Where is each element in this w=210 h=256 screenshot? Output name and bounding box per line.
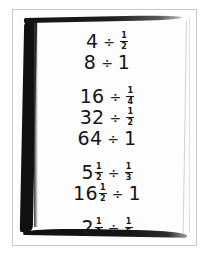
operand-fraction: 1 3 — [125, 163, 133, 182]
equation-line: 4 ÷ 1 2 — [86, 31, 128, 52]
operand-whole: 2 — [81, 218, 93, 237]
equation-group: 4 ÷ 1 2 8 ÷ 1 — [41, 31, 173, 73]
paper-sheet: 4 ÷ 1 2 8 ÷ 1 16 ÷ — [17, 15, 191, 239]
operand-whole: 64 — [78, 129, 103, 148]
fraction-denominator: 2 — [99, 195, 107, 203]
operand-whole: 8 — [84, 53, 96, 72]
operand-whole: 32 — [80, 108, 105, 127]
fraction-denominator: 5 — [125, 229, 133, 237]
fraction-numerator: 1 — [125, 163, 133, 171]
paper-right-edge — [183, 21, 187, 233]
operand-fraction: 1 4 — [126, 87, 134, 106]
equation-group: 5 1 2 ÷ 1 3 16 1 — [41, 162, 173, 204]
equation-line: 2 1 2 ÷ 1 5 — [81, 217, 132, 238]
border-stroke-left-feather — [34, 23, 38, 227]
operand-fraction: 1 2 — [126, 108, 134, 127]
equation-list: 4 ÷ 1 2 8 ÷ 1 16 ÷ — [41, 23, 173, 231]
division-operator: ÷ — [110, 111, 122, 125]
fraction-numerator: 1 — [126, 87, 134, 95]
fraction-denominator: 2 — [95, 229, 103, 237]
operand-whole: 16 — [73, 184, 98, 203]
operand-fraction: 1 5 — [125, 218, 133, 237]
operand-whole: 16 — [80, 87, 105, 106]
paper-right-edge-secondary — [189, 17, 190, 233]
operand-whole: 5 — [81, 163, 93, 182]
equation-group: 2 1 2 ÷ 1 5 — [41, 217, 173, 238]
fraction-numerator: 1 — [120, 32, 128, 40]
equation-line: 5 1 2 ÷ 1 3 — [81, 162, 132, 183]
equation-line: 16 ÷ 1 4 — [80, 86, 135, 107]
equation-group: 16 ÷ 1 4 32 ÷ 1 2 — [41, 86, 173, 149]
operand-whole: 4 — [86, 32, 98, 51]
border-stroke-top — [24, 15, 182, 23]
photo-canvas: 4 ÷ 1 2 8 ÷ 1 16 ÷ — [0, 0, 210, 256]
operand-fraction: 1 2 — [120, 32, 128, 51]
equation-line: 64 ÷ 1 — [78, 128, 137, 149]
division-operator: ÷ — [107, 132, 119, 146]
fraction-denominator: 2 — [120, 43, 128, 51]
division-operator: ÷ — [110, 90, 122, 104]
operand-whole: 1 — [124, 129, 136, 148]
division-operator: ÷ — [103, 35, 115, 49]
fraction-numerator: 1 — [95, 163, 103, 171]
fraction-numerator: 1 — [126, 108, 134, 116]
fraction-denominator: 2 — [126, 119, 134, 127]
division-operator: ÷ — [108, 166, 120, 180]
fraction-numerator: 1 — [95, 218, 103, 226]
operand-mixed-fraction: 1 2 — [99, 184, 107, 203]
operand-whole: 1 — [129, 184, 141, 203]
division-operator: ÷ — [112, 187, 124, 201]
operand-whole: 1 — [118, 53, 130, 72]
fraction-denominator: 3 — [125, 174, 133, 182]
fraction-numerator: 1 — [125, 218, 133, 226]
fraction-denominator: 2 — [95, 174, 103, 182]
operand-mixed-fraction: 1 2 — [95, 218, 103, 237]
division-operator: ÷ — [108, 221, 120, 235]
fraction-denominator: 4 — [126, 98, 134, 106]
equation-line: 8 ÷ 1 — [84, 52, 131, 73]
equation-line: 32 ÷ 1 2 — [80, 107, 135, 128]
fraction-numerator: 1 — [99, 184, 107, 192]
operand-mixed-fraction: 1 2 — [95, 163, 103, 182]
division-operator: ÷ — [101, 56, 113, 70]
equation-line: 16 1 2 ÷ 1 — [73, 183, 141, 204]
